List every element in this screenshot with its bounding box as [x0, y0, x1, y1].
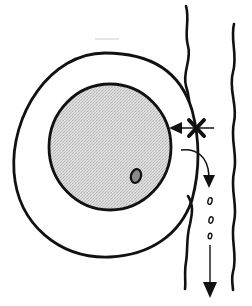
- smudge: [95, 38, 119, 40]
- right-wavy-wall: [232, 24, 236, 290]
- droplet: [208, 216, 214, 223]
- droplet: [208, 233, 213, 239]
- droplet: [207, 197, 213, 205]
- inner-body: [49, 84, 171, 210]
- flow-arrow-head: [203, 282, 217, 298]
- cell-secretion-diagram: [0, 0, 252, 306]
- release-arrow-head: [203, 175, 215, 188]
